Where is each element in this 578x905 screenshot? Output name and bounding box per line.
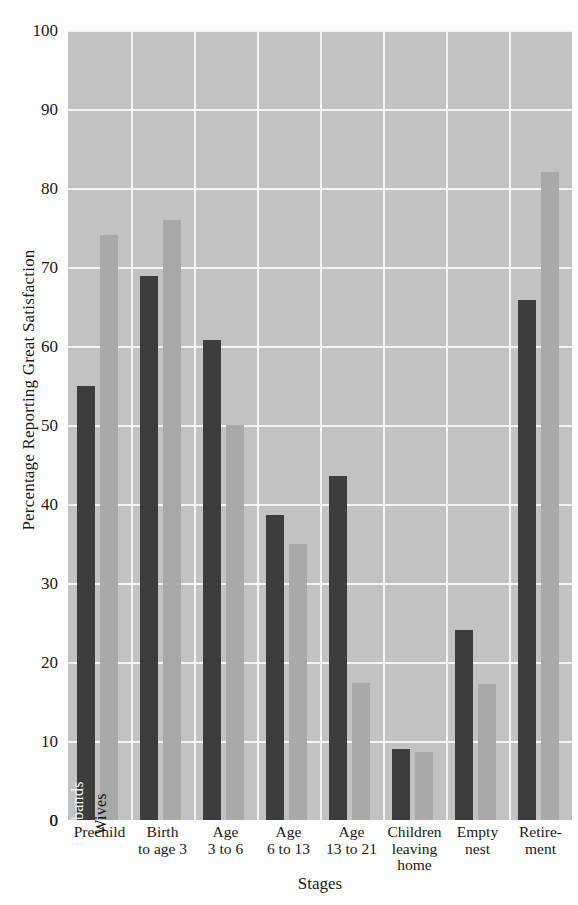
y-tick-10: 10 xyxy=(0,733,58,750)
y-tick-60: 60 xyxy=(0,338,58,355)
x-axis-tick-labels: PrechildBirthto age 3Age3 to 6Age6 to 13… xyxy=(68,824,572,874)
x-tick-line: 3 to 6 xyxy=(195,841,256,858)
x-tick-label-5: Childrenleavinghome xyxy=(383,824,446,874)
y-tick-100: 100 xyxy=(0,22,58,39)
x-tick-line: Age xyxy=(195,824,256,841)
bar-husbands-5[interactable] xyxy=(392,749,410,820)
bar-husbands-0[interactable]: Husbands xyxy=(77,386,95,821)
bar-wives-2[interactable] xyxy=(226,425,244,820)
bar-groups: HusbandsWives xyxy=(68,30,572,820)
x-tick-label-2: Age3 to 6 xyxy=(194,824,257,874)
x-tick-label-4: Age13 to 21 xyxy=(320,824,383,874)
y-tick-20: 20 xyxy=(0,654,58,671)
x-tick-line: Children xyxy=(384,824,445,841)
bar-group xyxy=(131,30,194,820)
plot-area: HusbandsWives xyxy=(68,30,572,820)
x-tick-line: leaving xyxy=(384,841,445,858)
bar-husbands-6[interactable] xyxy=(455,630,473,820)
y-axis-title: Percentage Reporting Great Satisfaction xyxy=(18,180,40,600)
bar-husbands-4[interactable] xyxy=(329,476,347,820)
bar-wives-3[interactable] xyxy=(289,544,307,821)
y-tick-50: 50 xyxy=(0,417,58,434)
bar-group: HusbandsWives xyxy=(68,30,131,820)
x-tick-line: Retire- xyxy=(510,824,571,841)
x-tick-label-1: Birthto age 3 xyxy=(131,824,194,874)
bar-husbands-7[interactable] xyxy=(518,300,536,820)
bar-group xyxy=(509,30,572,820)
y-tick-70: 70 xyxy=(0,259,58,276)
bar-wives-1[interactable] xyxy=(163,220,181,820)
bar-group xyxy=(446,30,509,820)
y-tick-30: 30 xyxy=(0,575,58,592)
x-tick-label-3: Age6 to 13 xyxy=(257,824,320,874)
x-tick-label-0: Prechild xyxy=(68,824,131,874)
x-tick-line: Age xyxy=(321,824,382,841)
y-tick-90: 90 xyxy=(0,101,58,118)
x-tick-label-6: Emptynest xyxy=(446,824,509,874)
bar-group xyxy=(320,30,383,820)
bar-husbands-1[interactable] xyxy=(140,276,158,820)
x-tick-line: nest xyxy=(447,841,508,858)
x-tick-line: ment xyxy=(510,841,571,858)
bar-group xyxy=(194,30,257,820)
y-tick-0: 0 xyxy=(0,812,58,829)
x-tick-line: Birth xyxy=(132,824,193,841)
y-tick-40: 40 xyxy=(0,496,58,513)
bar-wives-7[interactable] xyxy=(541,172,559,820)
bar-group xyxy=(257,30,320,820)
bar-wives-6[interactable] xyxy=(478,684,496,820)
x-tick-line: to age 3 xyxy=(132,841,193,858)
bar-wives-5[interactable] xyxy=(415,752,433,820)
x-tick-line: Age xyxy=(258,824,319,841)
y-tick-80: 80 xyxy=(0,180,58,197)
bar-husbands-3[interactable] xyxy=(266,515,284,820)
bar-husbands-2[interactable] xyxy=(203,340,221,820)
x-tick-line: home xyxy=(384,857,445,874)
x-tick-label-7: Retire-ment xyxy=(509,824,572,874)
x-tick-line: 6 to 13 xyxy=(258,841,319,858)
bar-chart: Percentage Reporting Great Satisfaction … xyxy=(0,0,578,905)
x-tick-line: Prechild xyxy=(69,824,130,841)
bar-group xyxy=(383,30,446,820)
x-tick-line: 13 to 21 xyxy=(321,841,382,858)
x-tick-line: Empty xyxy=(447,824,508,841)
x-axis-title: Stages xyxy=(68,874,572,894)
bar-wives-4[interactable] xyxy=(352,683,370,820)
bar-wives-0[interactable]: Wives xyxy=(100,235,118,820)
